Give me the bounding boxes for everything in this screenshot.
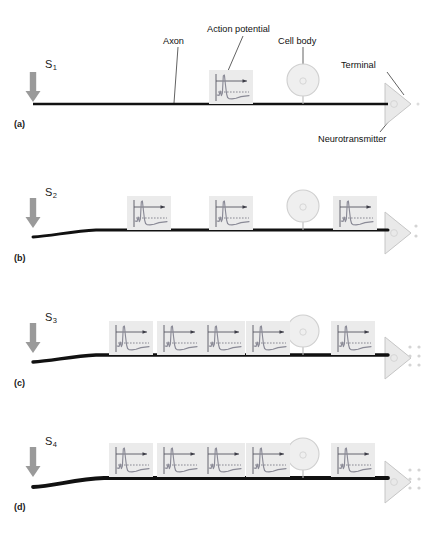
neurotransmitter-dot [417,354,420,357]
stimulus-symbol-a: S [45,58,52,70]
cell-body-b [287,190,319,222]
stimulus-subscript-d: 4 [53,440,57,449]
neurotransmitter-dot [417,468,420,471]
action-potential-box-d-4[interactable] [246,443,290,477]
panel-label-b: (b) [14,253,26,263]
stimulus-arrow-c [26,323,41,353]
callout-axon: Axon [163,36,184,46]
neurotransmitter-dot [408,363,411,366]
action-potential-box-d-2[interactable] [157,443,201,477]
callout-terminal: Terminal [341,60,376,70]
callout-neurotransmitter: Neurotransmitter [318,134,386,144]
stimulus-label-b: S2 [45,186,57,198]
neurotransmitter-dot [414,234,417,237]
neurotransmitter-dot [417,345,420,348]
cell-body-a [287,64,319,96]
action-potential-box-d-1[interactable] [109,443,153,477]
axon-b [33,230,388,237]
neurotransmitter-dot [414,224,417,227]
neurotransmitter-dot [408,468,411,471]
stimulus-label-a: S1 [45,58,57,70]
terminal-b [385,212,411,254]
neurotransmitter-dot [417,486,420,489]
callout-cell-body: Cell body [278,36,316,46]
panel-label-d: (d) [14,502,26,512]
figure-graphics [0,0,429,537]
action-potential-box-c-3[interactable] [201,321,245,355]
neuron-propagation-figure: Axon Action potential Cell body Terminal… [0,0,429,537]
stimulus-symbol-b: S [45,186,52,198]
panel-c-graphics [26,315,421,379]
terminal-c [385,337,411,379]
terminal-leader-line [387,72,404,95]
action-potential-box-c-2[interactable] [157,321,201,355]
cell-body-d [287,438,319,470]
neurotransmitter-dot [408,345,411,348]
stimulus-symbol-c: S [45,311,52,323]
axon-leader-line [174,47,178,103]
stimulus-subscript-b: 2 [53,191,57,200]
axon-c [33,355,388,362]
neurotransmitter-dot [408,354,411,357]
stimulus-label-c: S3 [45,311,57,323]
stimulus-arrow-b [26,198,41,228]
panel-label-c: (c) [14,378,25,388]
stimulus-arrow-d [26,447,41,477]
action-potential-box-c-1[interactable] [109,321,153,355]
neurotransmitter-dot [408,477,411,480]
stimulus-label-d: S4 [45,435,57,447]
action-potential-box-d-3[interactable] [201,443,245,477]
neurotransmitter-dot [417,363,420,366]
panel-d-graphics [26,438,421,503]
terminal-a [385,83,411,125]
action-potential-box-a-1[interactable] [209,70,253,104]
neurotransmitter-leader-line [380,110,398,132]
cell-body-c [287,315,319,347]
stimulus-symbol-d: S [45,435,52,447]
neurotransmitter-dot [417,477,420,480]
neurotransmitter-dot [417,103,420,106]
terminal-d [385,461,411,503]
panel-a-graphics [26,36,420,132]
action-potential-box-b-2[interactable] [209,196,253,230]
callout-action-potential: Action potential [207,24,270,34]
panel-b-graphics [26,190,418,254]
neurotransmitter-dot [408,486,411,489]
action-potential-box-b-3[interactable] [333,196,377,230]
action-potential-box-c-4[interactable] [246,321,290,355]
stimulus-subscript-c: 3 [53,316,57,325]
panel-label-a: (a) [14,119,25,129]
action-potential-box-d-5[interactable] [331,443,375,477]
stimulus-subscript-a: 1 [53,63,57,72]
action-potential-box-c-5[interactable] [331,321,375,355]
axon-d [33,478,388,487]
action-potential-box-b-1[interactable] [127,196,171,230]
stimulus-arrow-a [26,72,41,102]
